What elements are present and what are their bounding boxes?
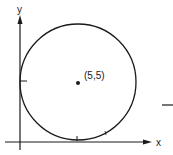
center-label: (5,5) [84,70,105,81]
y-axis-label: y [17,4,22,15]
diagram-canvas: y x (5,5) [0,0,173,155]
y-axis-arrow-icon [18,15,23,24]
center-point [76,81,80,85]
x-axis-label: x [156,137,161,148]
x-axis-arrow-icon [143,140,152,145]
circle-tick-mark [105,131,106,135]
